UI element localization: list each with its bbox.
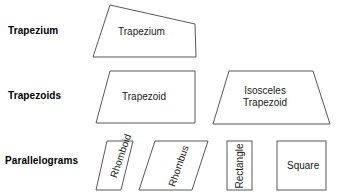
shape-label-isosceles-line1: Isosceles xyxy=(244,85,286,96)
shape-label-isosceles-trapezoid: Isosceles Trapezoid xyxy=(243,85,287,109)
shape-label-square: Square xyxy=(287,160,319,172)
row-label-trapezium: Trapezium xyxy=(8,25,58,36)
shape-label-trapezoid: Trapezoid xyxy=(122,91,166,103)
row-label-trapezoids: Trapezoids xyxy=(8,90,61,101)
shape-label-trapezium: Trapezium xyxy=(118,26,165,38)
shape-label-rectangle: Rectangle xyxy=(234,140,246,192)
quadrilateral-diagram: Trapezium Trapezoids Parallelograms Trap… xyxy=(0,0,338,196)
shape-label-isosceles-line2: Trapezoid xyxy=(243,97,287,109)
row-label-parallelograms: Parallelograms xyxy=(5,155,78,166)
